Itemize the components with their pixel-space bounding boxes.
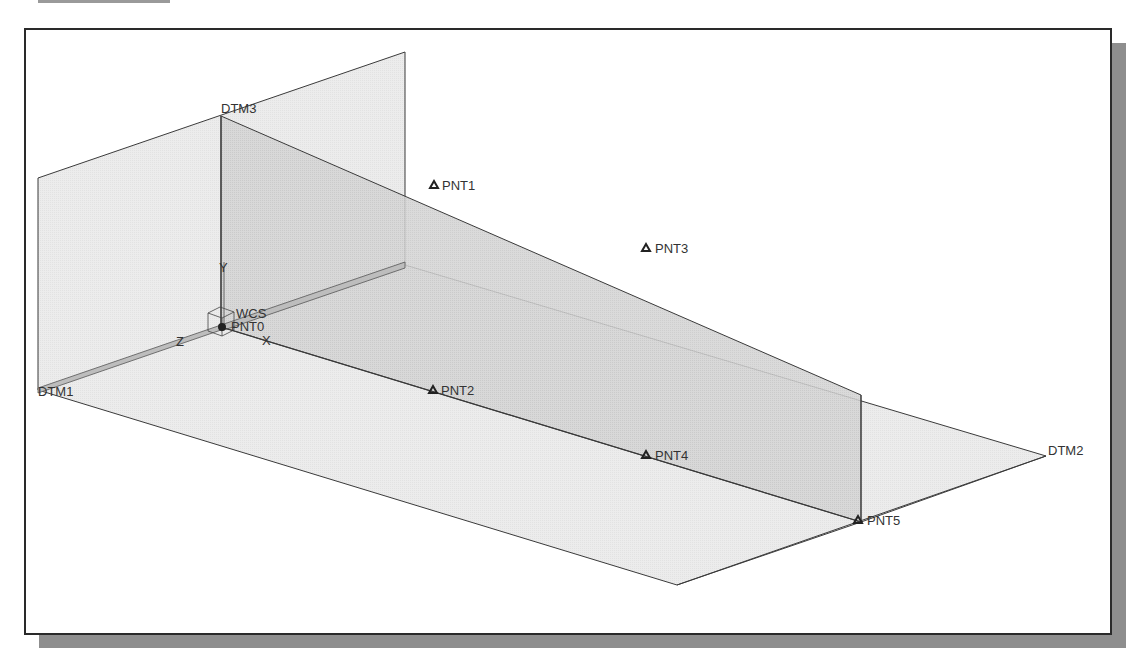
datum-point-pnt1[interactable]: PNT1 — [430, 178, 475, 193]
svg-text:PNT1: PNT1 — [442, 178, 475, 193]
model-viewport[interactable]: WCS Y X Z PNT0 PNT1 PNT2 PNT3 PNT4 PNT5 … — [0, 0, 1148, 658]
datum-point-icon — [642, 244, 650, 251]
x-axis-label: X — [262, 333, 271, 348]
datum-plane-label-dtm3: DTM3 — [221, 101, 256, 116]
datum-point-icon — [430, 181, 438, 188]
svg-text:PNT4: PNT4 — [655, 448, 688, 463]
svg-text:PNT5: PNT5 — [867, 513, 900, 528]
svg-text:PNT2: PNT2 — [441, 383, 474, 398]
datum-point-icon — [218, 323, 226, 331]
y-axis-label: Y — [219, 260, 228, 275]
datum-plane-label-dtm2: DTM2 — [1048, 443, 1083, 458]
datum-plane-label-dtm1: DTM1 — [38, 384, 73, 399]
svg-text:PNT0: PNT0 — [231, 319, 264, 334]
svg-text:PNT3: PNT3 — [655, 241, 688, 256]
datum-point-pnt3[interactable]: PNT3 — [642, 241, 688, 256]
z-axis-label: Z — [176, 334, 184, 349]
